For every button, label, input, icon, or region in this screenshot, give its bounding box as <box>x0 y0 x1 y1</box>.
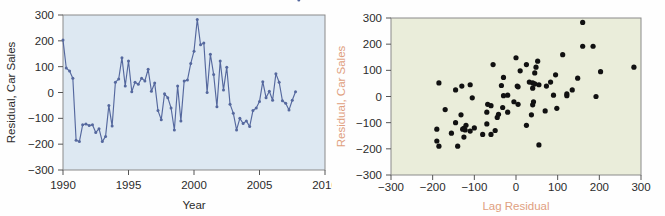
data-point <box>261 80 264 83</box>
data-point <box>235 128 238 131</box>
data-point <box>242 122 245 125</box>
data-point <box>443 107 448 112</box>
data-point <box>160 118 163 121</box>
data-point <box>189 62 192 65</box>
data-point <box>485 102 490 107</box>
data-point <box>515 84 520 89</box>
data-point <box>501 75 506 80</box>
data-point <box>173 128 176 131</box>
data-point <box>501 93 506 98</box>
data-point <box>529 112 534 117</box>
figure-container: −300−200−1000100200300199019952000200520… <box>0 0 665 216</box>
data-point <box>598 69 603 74</box>
data-point <box>222 88 225 91</box>
data-point <box>215 105 218 108</box>
y-tick-label: 300 <box>35 9 54 21</box>
data-point <box>287 109 290 112</box>
data-point <box>137 83 140 86</box>
y-tick-label: 100 <box>363 64 382 76</box>
scatter-chart-svg: −300−200−1000100200300−300−200−100010020… <box>332 0 665 216</box>
data-point <box>553 72 558 77</box>
data-point <box>248 125 251 128</box>
x-axis-title: Year <box>182 199 205 211</box>
data-point <box>81 123 84 126</box>
data-point <box>548 80 553 85</box>
x-tick-label: 1995 <box>116 179 142 191</box>
data-point <box>463 123 468 128</box>
x-tick-label: −200 <box>420 181 446 193</box>
data-point <box>532 70 537 75</box>
data-point <box>458 112 463 117</box>
y-axis-title: Residual, Car Sales <box>5 41 17 143</box>
y-tick-label: 200 <box>363 38 382 50</box>
data-point <box>496 112 501 117</box>
x-tick-label: 200 <box>590 181 609 193</box>
x-tick-label: 300 <box>631 181 650 193</box>
data-point <box>140 77 143 80</box>
data-point <box>544 83 549 88</box>
data-point <box>294 90 297 93</box>
data-point <box>554 106 559 111</box>
data-point <box>533 65 538 70</box>
data-point <box>580 44 585 49</box>
data-point <box>461 134 466 139</box>
data-point <box>580 20 585 25</box>
x-axis-left: 19901995200020052010 <box>50 170 332 191</box>
data-point <box>134 81 137 84</box>
data-point <box>107 104 110 107</box>
data-point <box>193 50 196 53</box>
data-point <box>156 109 159 112</box>
y-axis-left: −300−200−1000100200300 <box>28 9 63 176</box>
y-axis-title: Residual, Car Sales <box>335 45 347 147</box>
data-point <box>524 123 529 128</box>
data-point <box>176 85 179 88</box>
data-point <box>631 65 636 70</box>
data-point <box>490 62 495 67</box>
data-point <box>472 125 477 130</box>
data-point <box>111 125 114 128</box>
data-point <box>470 95 475 100</box>
data-point <box>271 99 274 102</box>
data-point <box>255 107 258 110</box>
data-point <box>62 39 65 42</box>
data-point <box>196 18 199 21</box>
data-point <box>500 105 505 110</box>
data-point <box>163 92 166 95</box>
data-point <box>130 90 133 93</box>
data-point <box>245 119 248 122</box>
data-point <box>291 99 294 102</box>
x-axis-right: −300−200−1000100200300 <box>378 175 651 193</box>
plot-area-background <box>63 15 325 170</box>
y-axis-right: −300−200−1000100200300 <box>356 12 391 181</box>
data-point <box>238 117 241 120</box>
x-tick-label: −300 <box>378 181 404 193</box>
data-point <box>436 144 441 149</box>
data-point <box>449 131 454 136</box>
data-point <box>225 66 228 69</box>
data-point <box>459 83 464 88</box>
y-tick-label: −200 <box>28 138 54 150</box>
data-point <box>78 140 81 143</box>
y-tick-label: 0 <box>376 91 382 103</box>
data-point <box>297 0 300 2</box>
data-point <box>480 132 485 137</box>
x-tick-label: 2000 <box>181 179 207 191</box>
data-point <box>101 140 104 143</box>
data-point <box>98 127 101 130</box>
data-point <box>65 66 68 69</box>
data-point <box>199 43 202 46</box>
data-point <box>515 102 520 107</box>
data-point <box>212 73 215 76</box>
data-point <box>274 72 277 75</box>
data-point <box>166 96 169 99</box>
data-point <box>543 108 548 113</box>
data-point <box>268 90 271 93</box>
data-point <box>75 139 78 142</box>
data-point <box>493 128 498 133</box>
data-point <box>499 83 504 88</box>
data-point <box>551 93 556 98</box>
data-point <box>468 82 473 87</box>
data-point <box>258 100 261 103</box>
data-point <box>124 85 127 88</box>
y-tick-label: −300 <box>28 164 54 176</box>
